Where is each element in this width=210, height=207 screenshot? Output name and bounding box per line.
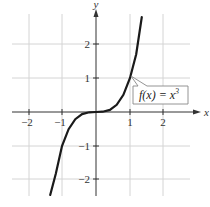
x-tick-label: −2 <box>21 116 33 128</box>
y-tick-label: −1 <box>78 140 90 152</box>
grid <box>12 14 190 196</box>
x-tick-label: 1 <box>127 116 133 128</box>
cubic-function-graph: −2 −1 1 2 2 1 −1 −2 x y f(x) = x3 <box>0 0 210 207</box>
x-axis-label: x <box>203 106 209 118</box>
y-tick-label: −2 <box>78 173 90 185</box>
y-axis-arrow-icon <box>94 9 99 17</box>
y-axis-label: y <box>93 0 99 10</box>
function-label-callout: f(x) = x3 <box>131 76 188 104</box>
y-tick-label: 2 <box>85 38 91 50</box>
function-label: f(x) = x3 <box>139 87 179 102</box>
x-tick-label: −1 <box>54 116 66 128</box>
axes <box>12 14 196 196</box>
y-tick-label: 1 <box>85 72 91 84</box>
x-tick-label: 2 <box>160 116 166 128</box>
x-axis-arrow-icon <box>193 110 201 115</box>
